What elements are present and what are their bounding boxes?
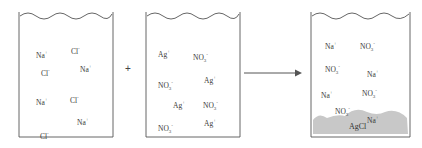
liquid-surface <box>147 13 239 19</box>
arrowhead-icon <box>295 70 302 77</box>
ion-label: Ag+ <box>173 100 185 109</box>
ion-label: NO3- <box>362 88 377 99</box>
ion-label: Cl- <box>40 131 49 140</box>
ion-label: Na+ <box>325 41 337 50</box>
ion-label: Ag+ <box>204 118 216 127</box>
ion-label: Ag+ <box>204 75 216 84</box>
plus-sign: + <box>125 63 131 74</box>
ion-label: NO3- <box>335 106 350 117</box>
ion-label: NO3- <box>325 64 340 75</box>
ion-label: Cl- <box>71 46 80 55</box>
ion-label: NO3- <box>193 52 208 63</box>
precipitate-label: AgCl <box>349 122 366 131</box>
ion-label: Na+ <box>36 50 48 59</box>
beaker-outline <box>19 8 113 138</box>
ion-label: NO3- <box>360 41 375 52</box>
ion-label: Na+ <box>80 64 92 73</box>
liquid-surface <box>20 13 112 19</box>
beaker-silver-nitrate: Ag+NO3-NO3-Ag+Ag+NO3-NO3-Ag+ <box>146 8 240 138</box>
beaker-sodium-chloride: Na+Cl-Cl-Na+Na+Cl-Na+Cl- <box>19 8 113 138</box>
liquid-surface <box>312 13 409 19</box>
beaker-products: AgCl Na+NO3-NO3-Na+Na+NO3-NO3-Na+ <box>311 8 411 138</box>
ion-label: Na+ <box>367 115 379 124</box>
ion-label: Na+ <box>321 90 333 99</box>
ion-label: Na+ <box>367 69 379 78</box>
ion-label: NO3- <box>158 80 173 91</box>
beaker-outline <box>146 8 240 138</box>
ion-label: Cl- <box>70 95 79 104</box>
ion-label: Cl- <box>41 68 50 77</box>
ion-label: Ag+ <box>158 49 170 58</box>
ion-label: Na+ <box>77 117 89 126</box>
ion-label: Na+ <box>36 97 48 106</box>
reaction-arrow <box>244 64 302 82</box>
ion-label: NO3- <box>158 123 173 134</box>
ion-label: NO3- <box>203 100 218 111</box>
